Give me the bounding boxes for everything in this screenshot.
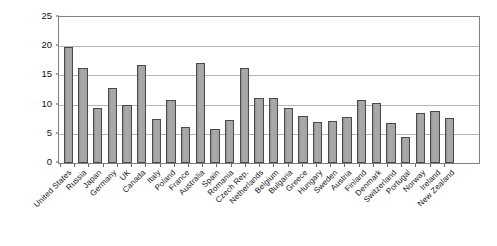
bar[interactable] [210,129,219,163]
bar[interactable] [342,117,351,163]
bar-slot[interactable] [222,17,237,163]
bar[interactable] [122,105,131,163]
bar-slot[interactable] [61,17,76,163]
bar-slot[interactable] [266,17,281,163]
bar-slot[interactable] [369,17,384,163]
x-axis-labels: United StatesRussiaJapanGermanyUKCanadaI… [58,166,480,246]
bar[interactable] [108,88,117,163]
bar-slot[interactable] [76,17,91,163]
bar-slot[interactable] [325,17,340,163]
bar[interactable] [78,68,87,163]
plot-area [58,16,480,164]
y-axis-tick-label: 15 [41,69,52,79]
bar-slot[interactable] [442,17,457,163]
bar-slot[interactable] [252,17,267,163]
bar-slot[interactable] [428,17,443,163]
bar-slot[interactable] [105,17,120,163]
bar[interactable] [284,108,293,163]
bar-slot[interactable] [134,17,149,163]
bar[interactable] [430,111,439,163]
bar-slot[interactable] [281,17,296,163]
bar-slot[interactable] [208,17,223,163]
y-axis-tick-label: 10 [41,99,52,109]
bar[interactable] [152,119,161,163]
bar-slot[interactable] [340,17,355,163]
bar[interactable] [181,127,190,163]
bar[interactable] [298,116,307,163]
co2-per-capita-bar-chart: CO2 per capita (t) 0510152025 United Sta… [0,0,497,246]
bar-slot[interactable] [354,17,369,163]
bar[interactable] [401,137,410,163]
bar-slot[interactable] [193,17,208,163]
y-axis-tick-labels: 0510152025 [30,10,56,164]
bar[interactable] [93,108,102,163]
bar-slot[interactable] [164,17,179,163]
bar[interactable] [137,65,146,163]
y-axis-tick-label: 20 [41,40,52,50]
bar-slot[interactable] [237,17,252,163]
x-axis-label-slot: New Zealand [443,166,458,246]
bars-container [59,17,479,163]
bar[interactable] [225,120,234,163]
y-axis-tick-label: 5 [47,128,52,138]
bar[interactable] [416,113,425,163]
bar-slot[interactable] [398,17,413,163]
bar[interactable] [328,121,337,163]
bar[interactable] [313,122,322,163]
bar[interactable] [64,47,73,163]
y-axis-tick-label: 25 [41,11,52,21]
bar[interactable] [240,68,249,163]
bar[interactable] [372,103,381,163]
bar[interactable] [196,63,205,163]
bar-slot[interactable] [120,17,135,163]
bar[interactable] [254,98,263,163]
bar[interactable] [445,118,454,163]
bar[interactable] [166,100,175,163]
y-axis-tick-label: 0 [47,157,52,167]
bar[interactable] [357,100,366,163]
x-axis-label-slot: Germany [104,166,119,246]
bar-slot[interactable] [310,17,325,163]
bar[interactable] [386,123,395,163]
bar-slot[interactable] [296,17,311,163]
bar-slot[interactable] [178,17,193,163]
bar-slot[interactable] [413,17,428,163]
bar-slot[interactable] [90,17,105,163]
bar-slot[interactable] [384,17,399,163]
bar[interactable] [269,98,278,163]
bar-slot[interactable] [149,17,164,163]
